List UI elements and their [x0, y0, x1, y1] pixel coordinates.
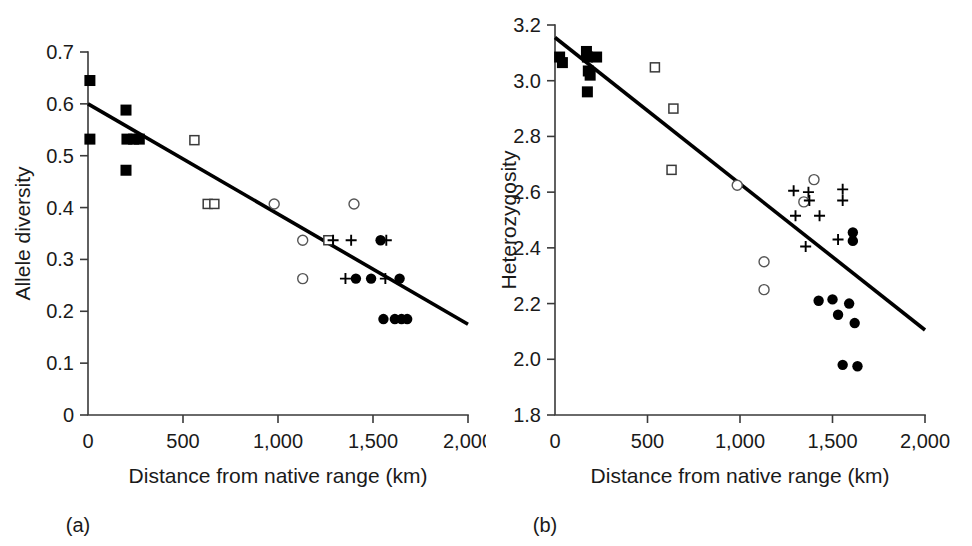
- data-point-filled-circle[interactable]: [833, 310, 843, 320]
- y-axis-tick-label: 0.5: [46, 145, 74, 167]
- y-axis-tick-label: 0.1: [46, 352, 74, 374]
- x-axis-tick-label: 500: [631, 430, 664, 452]
- heterozygosity-scatter-plot: 1.82.02.22.42.62.83.03.205001,0001,5002,…: [486, 0, 972, 546]
- data-point-filled-square[interactable]: [585, 70, 596, 81]
- y-axis-tick-label: 0: [63, 404, 74, 426]
- y-axis-tick-label: 2.2: [513, 293, 541, 315]
- x-axis-title: Distance from native range (km): [591, 464, 890, 487]
- data-point-plus[interactable]: [790, 210, 801, 221]
- data-point-filled-square[interactable]: [591, 52, 602, 63]
- x-axis-tick-label: 1,000: [253, 430, 303, 452]
- allele-diversity-scatter-plot: 00.10.20.30.40.50.60.705001,0001,5002,00…: [0, 0, 486, 546]
- data-point-open-circle[interactable]: [269, 199, 279, 209]
- data-point-filled-circle[interactable]: [827, 294, 837, 304]
- y-axis-tick-label: 3.2: [513, 14, 541, 36]
- data-point-filled-square[interactable]: [121, 165, 132, 176]
- data-point-open-circle[interactable]: [349, 199, 359, 209]
- data-point-filled-circle[interactable]: [848, 236, 858, 246]
- data-point-filled-square[interactable]: [557, 57, 568, 68]
- data-point-filled-circle[interactable]: [837, 360, 847, 370]
- x-axis-tick-label: 2,000: [900, 430, 950, 452]
- panel-a: 00.10.20.30.40.50.60.705001,0001,5002,00…: [0, 0, 486, 546]
- data-point-filled-circle[interactable]: [402, 314, 412, 324]
- x-axis-tick-label: 1,500: [807, 430, 857, 452]
- data-point-plus[interactable]: [837, 184, 848, 195]
- y-axis-tick-label: 0.3: [46, 248, 74, 270]
- data-point-open-circle[interactable]: [298, 274, 308, 284]
- data-point-filled-square[interactable]: [134, 134, 145, 145]
- x-axis-tick-label: 1,000: [715, 430, 765, 452]
- data-point-filled-circle[interactable]: [366, 273, 376, 283]
- x-axis-tick-label: 0: [82, 430, 93, 452]
- data-point-plus[interactable]: [837, 195, 848, 206]
- data-point-open-circle[interactable]: [799, 197, 809, 207]
- data-point-filled-circle[interactable]: [394, 273, 404, 283]
- series-open-square: [650, 63, 678, 175]
- series-filled-circle: [351, 235, 413, 324]
- data-point-plus[interactable]: [800, 241, 811, 252]
- panel-label-a: (a): [66, 514, 90, 536]
- data-point-filled-circle[interactable]: [813, 296, 823, 306]
- data-point-open-circle[interactable]: [298, 235, 308, 245]
- y-axis-title: Heterozygosity: [497, 150, 520, 289]
- data-point-filled-circle[interactable]: [852, 361, 862, 371]
- data-point-filled-circle[interactable]: [351, 273, 361, 283]
- y-axis-tick-label: 0.4: [46, 197, 74, 219]
- data-point-filled-square[interactable]: [582, 86, 593, 97]
- data-point-open-square[interactable]: [190, 136, 199, 145]
- data-point-open-circle[interactable]: [759, 285, 769, 295]
- data-point-filled-circle[interactable]: [844, 298, 854, 308]
- data-point-open-square[interactable]: [650, 63, 659, 72]
- data-point-plus[interactable]: [340, 273, 351, 284]
- data-point-open-circle[interactable]: [759, 257, 769, 267]
- data-point-open-square[interactable]: [667, 165, 676, 174]
- data-point-open-circle[interactable]: [809, 175, 819, 185]
- x-axis-title: Distance from native range (km): [129, 464, 428, 487]
- y-axis-tick-label: 0.2: [46, 300, 74, 322]
- plot-axes: [88, 52, 468, 415]
- data-point-plus[interactable]: [788, 185, 799, 196]
- data-point-plus[interactable]: [346, 235, 357, 246]
- x-axis-tick-label: 0: [549, 430, 560, 452]
- series-filled-square: [84, 75, 144, 176]
- y-axis-tick-label: 1.8: [513, 404, 541, 426]
- y-axis-tick-label: 2.8: [513, 125, 541, 147]
- y-axis-tick-label: 0.7: [46, 41, 74, 63]
- data-point-open-circle[interactable]: [732, 180, 742, 190]
- y-axis-tick-label: 0.6: [46, 93, 74, 115]
- x-axis-tick-label: 500: [166, 430, 199, 452]
- data-point-filled-circle[interactable]: [375, 235, 385, 245]
- data-point-plus[interactable]: [833, 234, 844, 245]
- series-open-circle: [269, 199, 359, 284]
- series-plus: [788, 184, 848, 252]
- y-axis-title: Allele diversity: [11, 166, 34, 301]
- series-open-square: [190, 136, 333, 245]
- x-axis-tick-label: 1,500: [348, 430, 398, 452]
- data-point-filled-square[interactable]: [121, 105, 132, 116]
- trend-line: [88, 104, 468, 324]
- data-point-filled-circle[interactable]: [850, 318, 860, 328]
- data-point-filled-square[interactable]: [84, 75, 95, 86]
- data-point-open-square[interactable]: [210, 199, 219, 208]
- data-point-filled-circle[interactable]: [378, 314, 388, 324]
- x-axis-tick-label: 2,000: [443, 430, 486, 452]
- data-point-filled-square[interactable]: [84, 134, 95, 145]
- data-point-open-square[interactable]: [669, 104, 678, 113]
- panel-b: 1.82.02.22.42.62.83.03.205001,0001,5002,…: [486, 0, 972, 546]
- data-point-plus[interactable]: [814, 210, 825, 221]
- y-axis-tick-label: 3.0: [513, 70, 541, 92]
- figure-container: 00.10.20.30.40.50.60.705001,0001,5002,00…: [0, 0, 972, 546]
- panel-label-b: (b): [533, 514, 557, 536]
- y-axis-tick-label: 2.0: [513, 348, 541, 370]
